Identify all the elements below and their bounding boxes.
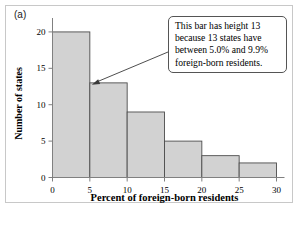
callout-arrow-line (98, 52, 168, 81)
histogram-bar (239, 163, 276, 178)
x-tick-label: 25 (235, 185, 245, 195)
callout-line: between 5.0% and 9.9% (175, 44, 281, 56)
callout-arrow-head (92, 79, 100, 85)
y-tick-label: 5 (41, 136, 46, 146)
y-tick-label: 20 (37, 27, 47, 37)
histogram-bar (53, 32, 90, 178)
y-tick-label: 15 (37, 63, 47, 73)
x-tick-label: 0 (50, 185, 55, 195)
histogram-figure: (a) Number of states Percent of foreign-… (0, 0, 305, 228)
x-tick-label: 30 (272, 185, 282, 195)
callout-line: This bar has height 13 (175, 20, 281, 32)
callout-line: foreign-born residents. (175, 57, 281, 69)
histogram-bar (165, 141, 202, 177)
callout-box: This bar has height 13 because 13 states… (168, 16, 287, 73)
histogram-bar (202, 156, 239, 178)
x-tick-label: 10 (123, 185, 133, 195)
callout-line: because 13 states have (175, 32, 281, 44)
x-tick-label: 20 (197, 185, 207, 195)
y-tick-label: 0 (41, 173, 46, 183)
callout-arrow (92, 52, 168, 85)
histogram-bar (90, 83, 127, 178)
histogram-bar (127, 112, 164, 178)
x-tick-label: 15 (160, 185, 170, 195)
x-tick-label: 5 (88, 185, 93, 195)
y-tick-label: 10 (37, 100, 47, 110)
